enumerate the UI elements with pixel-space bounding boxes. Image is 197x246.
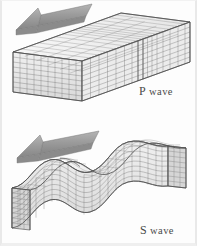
- s-wave-panel: [12, 131, 186, 230]
- s-wave-label-rest: wave: [147, 225, 174, 236]
- p-wave-label-rest: wave: [146, 86, 173, 97]
- s-wave-arrow: [17, 131, 99, 163]
- p-wave-label: P wave: [139, 81, 173, 99]
- seismic-wave-figure: P wave S wave: [0, 0, 197, 246]
- s-wave-label: S wave: [140, 220, 174, 238]
- wave-diagram-canvas: [0, 0, 197, 246]
